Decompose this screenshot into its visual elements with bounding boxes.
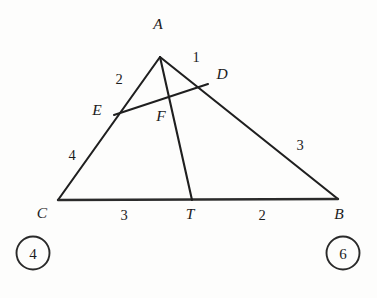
length-label-db: 3 — [296, 137, 303, 153]
vertex-label-F: F — [155, 107, 166, 124]
length-label-tb: 2 — [258, 207, 265, 223]
length-label-ct: 3 — [120, 207, 127, 223]
geometry-canvas: A B C D E F T 1 2 4 3 3 2 4 6 — [0, 0, 377, 298]
geometry-figure: A B C D E F T 1 2 4 3 3 2 4 6 — [0, 0, 377, 298]
answer-circle-right[interactable]: 6 — [327, 237, 360, 270]
side-c-to-a — [58, 57, 160, 200]
answer-circle-left-value: 4 — [29, 246, 37, 262]
length-label-ae: 2 — [115, 71, 122, 87]
length-label-ec: 4 — [68, 147, 76, 163]
base-c-to-b — [58, 199, 338, 200]
vertex-label-B: B — [334, 205, 344, 222]
length-label-ad: 1 — [192, 49, 199, 65]
triangle-outline — [58, 57, 338, 200]
vertex-label-D: D — [215, 65, 227, 82]
vertex-label-A: A — [152, 15, 163, 32]
vertex-label-T: T — [186, 205, 196, 222]
answer-circle-right-value: 6 — [339, 246, 347, 262]
vertex-label-E: E — [91, 101, 102, 118]
vertex-label-C: C — [37, 204, 48, 221]
cevian-lines — [114, 57, 208, 200]
answer-circle-left[interactable]: 4 — [17, 237, 50, 270]
